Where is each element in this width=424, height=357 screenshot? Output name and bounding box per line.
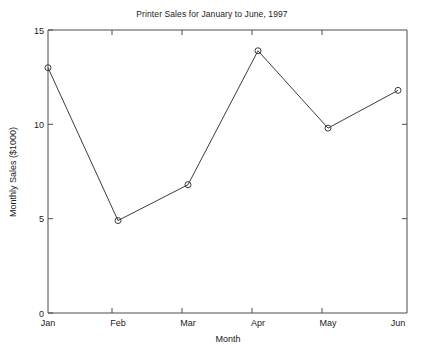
y-tick-label-15: 15 [34,26,44,36]
x-tick-label-mar: Mar [180,318,196,328]
x-tick-label-feb: Feb [110,318,126,328]
y-tick-label-0: 0 [39,309,44,319]
y-tick-label-10: 10 [34,120,44,130]
x-tick-label-jun: Jun [391,318,406,328]
series-markers-group [45,48,401,224]
axes-frame [48,30,407,313]
x-tick-labels: Jan Feb Mar Apr May Jun [41,318,406,328]
y-axis-ticks [48,30,407,313]
line-chart-plot: 0 5 10 15 Jan Feb Mar Apr May Jun Month … [0,0,424,357]
x-tick-label-apr: Apr [251,318,265,328]
chart-figure: Printer Sales for January to June, 1997 [0,0,424,357]
y-tick-label-5: 5 [39,214,44,224]
y-axis-title: Monthly Sales ($1000) [8,127,18,217]
x-tick-label-jan: Jan [41,318,56,328]
y-tick-labels: 0 5 10 15 [34,26,44,319]
data-series-monthly-sales [45,48,401,224]
x-axis-ticks [112,30,322,313]
series-line-monthly-sales [48,51,398,221]
x-axis-title: Month [215,334,240,344]
x-tick-label-may: May [319,318,337,328]
